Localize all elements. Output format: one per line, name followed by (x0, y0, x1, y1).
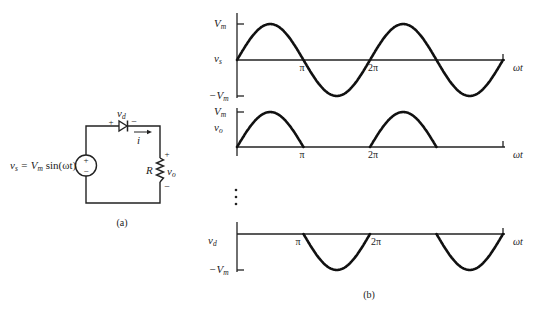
vs-wt-label: ωt (513, 62, 523, 73)
vd-wt-label: ωt (513, 236, 523, 247)
output-voltage-label: vo (167, 165, 176, 179)
vs-tick-2pi: 2π (368, 62, 378, 73)
vo-tick-2pi: 2π (368, 149, 378, 160)
vd-waveform (304, 234, 504, 270)
caption-a: (a) (116, 217, 127, 229)
vd-tick-pi: π (295, 236, 300, 247)
source-equation: vs = Vm sin(ωt) (10, 159, 76, 173)
resistor-label: R (145, 164, 153, 176)
vd-plot: −Vm vd π 2π ωt (208, 222, 523, 277)
output-minus: − (164, 181, 170, 192)
current-label: i (137, 134, 140, 146)
diode-icon (117, 121, 128, 132)
vo-plot: Vm vo π 2π ωt (214, 105, 523, 160)
circuit-diagram: + − vs = Vm sin(ωt) vd + − i R + − (10, 107, 176, 229)
wire-top-right (128, 126, 160, 158)
vo-waveform (237, 112, 503, 147)
vo-vm-label: Vm (214, 105, 227, 119)
wire-left-top (86, 126, 117, 155)
diode-minus: − (131, 116, 137, 127)
half-wave-rectifier-figure: + − vs = Vm sin(ωt) vd + − i R + − (0, 0, 535, 312)
waveforms: Vm −Vm vs π 2π ωt Vm vo π 2π ωt (208, 13, 523, 301)
vs-plot: Vm −Vm vs π 2π ωt (209, 13, 523, 103)
vo-tick-pi: π (299, 149, 304, 160)
vo-wt-label: ωt (513, 149, 523, 160)
ellipsis-dots (235, 189, 238, 206)
vd-neg-vm-label: −Vm (209, 263, 229, 277)
vo-axis-label: vo (214, 121, 223, 135)
vd-axis-label: vd (208, 234, 217, 248)
diode-voltage-label: vd (117, 107, 126, 121)
vs-axis-label: vs (214, 52, 222, 66)
source-minus: − (83, 166, 88, 176)
vs-neg-vm-label: −Vm (209, 89, 229, 103)
vd-tick-2pi: 2π (371, 236, 381, 247)
source-plus: + (83, 155, 88, 165)
resistor-icon (157, 158, 164, 182)
wire-right-bottom (86, 176, 160, 203)
caption-b: (b) (363, 289, 375, 301)
output-plus: + (164, 149, 169, 159)
vs-vm-label: Vm (214, 17, 227, 31)
diode-plus: + (108, 117, 113, 127)
vs-tick-pi: π (299, 62, 304, 73)
